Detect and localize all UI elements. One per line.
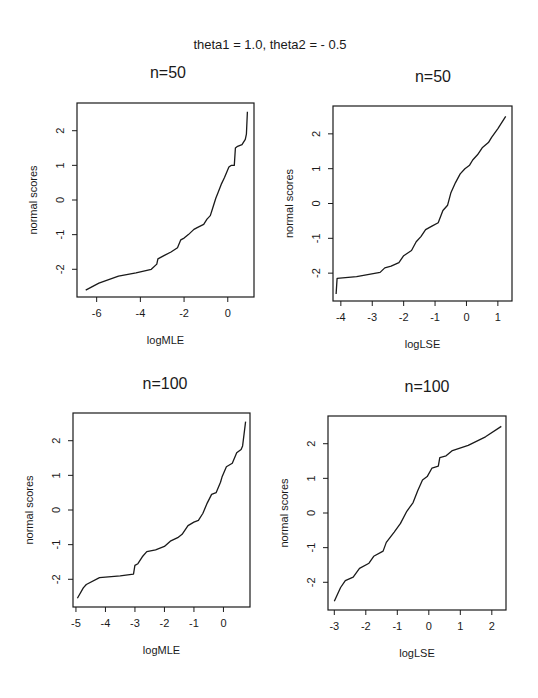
y-tick-label: 2 (54, 128, 66, 134)
panel-title: n=50 (415, 68, 451, 85)
y-tick-label: 0 (50, 507, 62, 513)
x-tick-label: -4 (336, 311, 346, 323)
plot-area: -5-4-3-2-10-2-1012 (50, 413, 250, 629)
y-axis-label: normal scores (283, 168, 295, 238)
x-axis-label: logMLE (143, 644, 180, 656)
panel-top-left: n=50 logMLE normal scores -6-4-20-2-1012 (27, 64, 254, 346)
qq-line (334, 426, 501, 601)
x-tick-label: -6 (92, 307, 102, 319)
panel-title: n=100 (405, 378, 450, 395)
y-tick-label: 2 (50, 438, 62, 444)
x-tick-label: -3 (367, 311, 377, 323)
y-tick-label: 2 (305, 441, 317, 447)
y-tick-label: 1 (50, 472, 62, 478)
y-tick-label: 1 (54, 162, 66, 168)
x-tick-label: -1 (189, 617, 199, 629)
x-tick-label: 0 (426, 620, 432, 632)
y-tick-label: 0 (54, 197, 66, 203)
x-tick-label: 1 (495, 311, 501, 323)
y-axis-label: normal scores (278, 478, 290, 548)
x-tick-label: -1 (430, 311, 440, 323)
y-tick-label: -2 (50, 574, 62, 584)
x-axis-label: logLSE (405, 338, 440, 350)
x-tick-label: -2 (361, 620, 371, 632)
x-tick-label: -2 (179, 307, 189, 319)
x-tick-label: -4 (101, 617, 111, 629)
x-tick-label: -3 (130, 617, 140, 629)
y-tick-label: 1 (310, 166, 322, 172)
plot-area: -3-2-1012-2-1012 (305, 416, 506, 632)
figure-suptitle: theta1 = 1.0, theta2 = - 0.5 (193, 37, 346, 52)
y-tick-label: 2 (310, 131, 322, 137)
y-tick-label: 1 (305, 475, 317, 481)
x-tick-label: 2 (489, 620, 495, 632)
y-tick-label: -1 (310, 233, 322, 243)
plot-area: -4-3-2-101-2-1012 (310, 106, 512, 323)
x-tick-label: 0 (220, 617, 226, 629)
x-tick-label: 0 (225, 307, 231, 319)
y-axis-label: normal scores (23, 475, 35, 545)
figure-canvas: theta1 = 1.0, theta2 = - 0.5 n=50 logMLE… (0, 0, 538, 698)
y-tick-label: -1 (305, 543, 317, 553)
panel-top-right: n=50 logLSE normal scores -4-3-2-101-2-1… (283, 68, 512, 350)
y-axis-label: normal scores (27, 165, 39, 235)
plot-area: -6-4-20-2-1012 (54, 103, 254, 319)
panel-bottom-left: n=100 logMLE normal scores -5-4-3-2-10-2… (23, 375, 250, 656)
axes-frame (333, 106, 512, 301)
x-tick-label: 0 (463, 311, 469, 323)
x-axis-label: logMLE (147, 334, 184, 346)
x-tick-label: -2 (399, 311, 409, 323)
panel-title: n=100 (143, 375, 188, 392)
y-tick-label: -1 (50, 540, 62, 550)
axes-frame (77, 103, 254, 297)
x-tick-label: -1 (392, 620, 402, 632)
panel-title: n=50 (150, 64, 186, 81)
x-tick-label: -2 (160, 617, 170, 629)
x-tick-label: 1 (457, 620, 463, 632)
y-tick-label: 0 (310, 200, 322, 206)
y-tick-label: 0 (305, 510, 317, 516)
axes-frame (328, 416, 506, 610)
qq-line (77, 422, 245, 599)
panel-bottom-right: n=100 logLSE normal scores -3-2-1012-2-1… (278, 378, 506, 659)
y-tick-label: -2 (54, 264, 66, 274)
y-tick-label: -2 (305, 577, 317, 587)
qq-line (86, 112, 248, 290)
qq-line (336, 116, 506, 294)
x-tick-label: -5 (71, 617, 81, 629)
y-tick-label: -2 (310, 268, 322, 278)
y-tick-label: -1 (54, 230, 66, 240)
x-tick-label: -3 (329, 620, 339, 632)
x-axis-label: logLSE (399, 647, 434, 659)
x-tick-label: -4 (135, 307, 145, 319)
